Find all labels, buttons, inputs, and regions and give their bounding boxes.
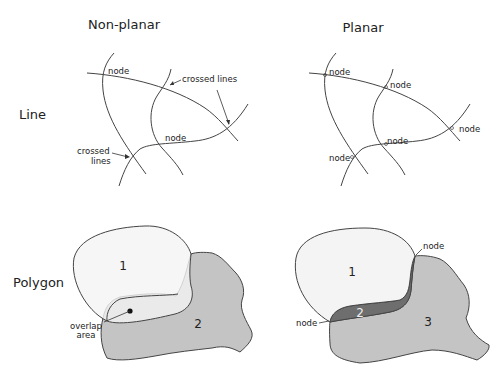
arrowhead-icon [170,81,174,85]
node-marker [451,127,454,130]
node-label: node [108,66,129,76]
polygon-label-1: 1 [119,259,127,273]
leader-line [217,90,229,124]
node-marker [351,156,354,159]
polygon-label-1: 1 [348,265,356,279]
node-label: node [459,124,480,134]
row-label-line: Line [19,107,46,122]
planar-vs-nonplanar-diagram: Non-planar Planar Line Polygon node cros… [0,0,502,373]
node-label: node [390,80,411,90]
polygon-label-2: 2 [194,317,202,331]
node-label: node [165,133,186,143]
arrowhead-icon [125,154,130,159]
arrowhead-icon [226,120,230,125]
polygon-nonplanar-panel: 1 2 overlap area [70,226,252,360]
node-label: node [296,318,317,328]
leader-line [319,321,329,323]
node-label: node [329,67,350,77]
row-label-polygon: Polygon [13,275,64,290]
crossed-lines-label: crossed [77,146,110,156]
node-label: node [387,136,408,146]
polygon-planar-panel: 1 2 3 node node [295,228,489,363]
line-segment [151,69,183,175]
line-nonplanar-panel: node crossed lines node crossed lines [77,53,248,186]
node-label: node [329,153,350,163]
polygon-label-3: 3 [424,315,432,329]
column-title-planar: Planar [343,20,385,35]
node-label: node [423,241,444,251]
line-segment [119,104,248,186]
overlap-area-label: area [77,330,96,340]
leader-line [416,249,422,255]
polygon-1 [73,226,192,323]
crossed-lines-label: lines [91,156,111,166]
polygon-label-2: 2 [356,306,364,320]
line-planar-panel: node node node node node [309,53,480,186]
crossed-lines-label: crossed lines [182,74,238,84]
line-segment [309,73,460,141]
column-title-nonplanar: Non-planar [88,17,161,32]
